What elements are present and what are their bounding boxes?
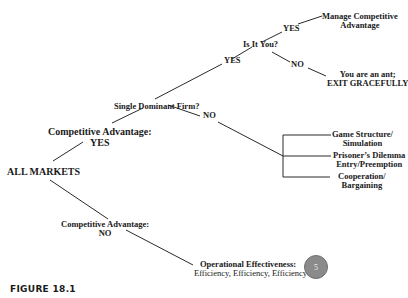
figure-caption: FIGURE 18.1 — [10, 284, 76, 294]
ca-yes-value: YES — [48, 137, 152, 148]
edge-label-sdf-yes: YES — [224, 56, 241, 65]
prisoners-dilemma-line2: Entry/Preemption — [333, 160, 405, 169]
manage-line2: Advantage — [322, 21, 398, 30]
node-is-it-you: Is It You? — [243, 40, 278, 49]
exit-line2: EXIT GRACEFULLY — [327, 79, 408, 88]
page-badge: 5 — [304, 255, 328, 279]
leaf-exit-gracefully: You are an ant; EXIT GRACEFULLY — [327, 70, 408, 89]
node-competitive-advantage-yes: Competitive Advantage: YES — [48, 126, 152, 148]
leaf-operational-effectiveness: Operational Effectiveness: Efficiency, E… — [194, 260, 307, 279]
edge-label-sdf-no: NO — [203, 111, 216, 120]
leaf-cooperation: Cooperation/ Bargaining — [338, 172, 386, 191]
leaf-prisoners-dilemma: Prisoner’s Dilemma Entry/Preemption — [333, 151, 405, 170]
node-single-dominant-firm: Single Dominant Firm? — [114, 102, 199, 111]
operational-line2: Efficiency, Efficiency, Efficiency — [194, 269, 307, 278]
node-all-markets: ALL MARKETS — [7, 166, 80, 177]
ca-no-value: NO — [61, 229, 149, 238]
leaf-game-structure: Game Structure/ Simulation — [332, 130, 393, 149]
edge-label-iiy-yes: YES — [283, 24, 300, 33]
cooperation-line2: Bargaining — [338, 181, 386, 190]
edge-label-iiy-no: NO — [291, 60, 304, 69]
ca-yes-label: Competitive Advantage: — [48, 126, 152, 137]
node-competitive-advantage-no: Competitive Advantage: NO — [61, 220, 149, 239]
leaf-manage-competitive-advantage: Manage Competitive Advantage — [322, 12, 398, 31]
game-structure-line2: Simulation — [332, 139, 393, 148]
